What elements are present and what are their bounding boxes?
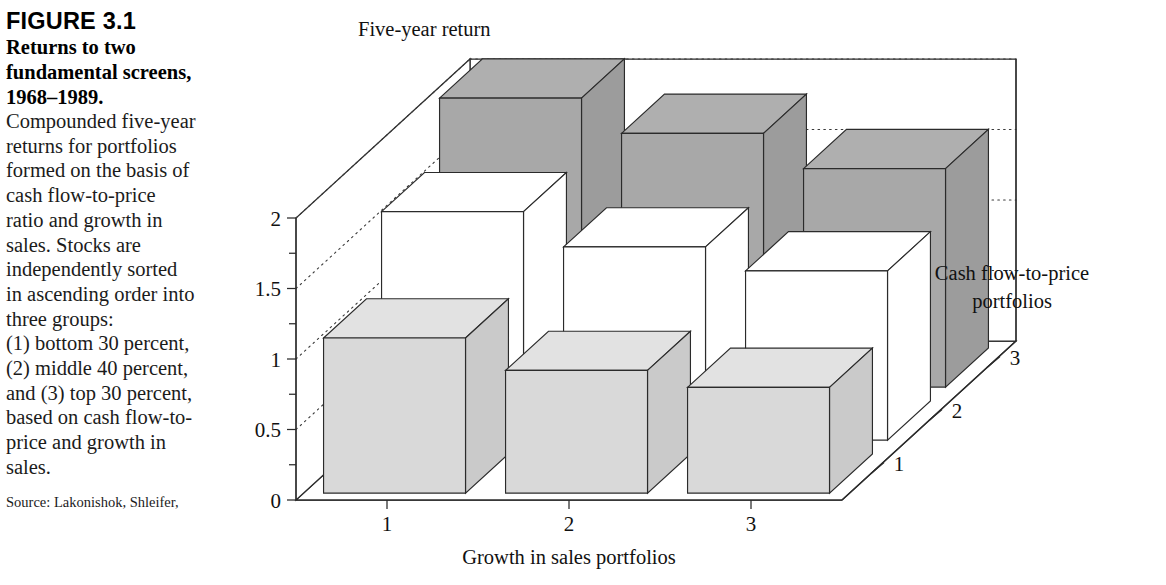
figure-body-line: (2) middle 40 percent, <box>6 356 250 381</box>
y-tick-label-1: 0.5 <box>255 418 281 442</box>
y-tick-label-2: 1 <box>271 348 282 372</box>
x-tick-label-1: 2 <box>564 512 575 536</box>
depth-tick-label-2: 3 <box>1010 346 1021 370</box>
figure-body-line: independently sorted <box>6 257 250 282</box>
y-tick-label-0: 0 <box>271 489 282 513</box>
bar-front-face <box>688 387 830 493</box>
y-axis-title: Five-year return <box>358 18 491 41</box>
figure-body-line: based on cash flow-to- <box>6 405 250 430</box>
figure-body-text: Compounded five-year returns for portfol… <box>6 109 250 479</box>
figure-body-line: price and growth in <box>6 430 250 455</box>
figure-body-line: (1) bottom 30 percent, <box>6 331 250 356</box>
depth-axis-title-line-2: portfolios <box>972 290 1052 313</box>
y-tick-label-3: 1.5 <box>255 277 281 301</box>
figure-body-line: sales. <box>6 455 250 480</box>
x-tick-label-0: 1 <box>382 512 393 536</box>
bar-front-face <box>506 370 648 493</box>
figure-title-line: Returns to two <box>6 35 250 60</box>
figure-title-line: fundamental screens, <box>6 60 250 85</box>
figure-number: FIGURE 3.1 <box>6 8 250 34</box>
x-tick-label-2: 3 <box>746 512 757 536</box>
figure-body-line: formed on the basis of <box>6 158 250 183</box>
figure-body-line: cash flow-to-price <box>6 183 250 208</box>
chart-svg: 00.511.52Five-year return123Growth in sa… <box>250 0 1166 585</box>
figure-body-line: and (3) top 30 percent, <box>6 381 250 406</box>
depth-tick-label-1: 2 <box>952 399 963 423</box>
figure-body-line: three groups: <box>6 307 250 332</box>
figure-page: FIGURE 3.1 Returns to two fundamental sc… <box>0 0 1166 585</box>
bar-side-face <box>946 129 989 387</box>
y-tick-label-4: 2 <box>271 207 282 231</box>
figure-caption-block: FIGURE 3.1 Returns to two fundamental sc… <box>6 8 250 512</box>
figure-body-line: ratio and growth in <box>6 208 250 233</box>
figure-title-line: 1968–1989. <box>6 85 250 110</box>
figure-body-line: Compounded five-year <box>6 109 250 134</box>
depth-tick-label-0: 1 <box>894 452 905 476</box>
depth-axis-title-line-1: Cash flow-to-price <box>935 262 1089 285</box>
bar-front-face <box>324 338 466 493</box>
figure-source: Source: Lakonishok, Shleifer, <box>6 493 250 511</box>
figure-body-line: in ascending order into <box>6 282 250 307</box>
figure-body-line: sales. Stocks are <box>6 233 250 258</box>
x-axis-title: Growth in sales portfolios <box>462 546 676 569</box>
figure-title: Returns to two fundamental screens, 1968… <box>6 35 250 109</box>
figure-body-line: returns for portfolios <box>6 134 250 159</box>
three-d-bar-chart: 00.511.52Five-year return123Growth in sa… <box>250 0 1166 585</box>
